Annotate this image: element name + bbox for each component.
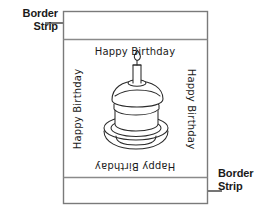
candle (133, 65, 141, 83)
card-diagram (0, 0, 264, 217)
figure-canvas: Border Strip Border Strip (0, 0, 264, 217)
greeting-text-right: Happy Birthday (186, 69, 197, 150)
greeting-text-left: Happy Birthday (72, 69, 83, 150)
greeting-text-bottom: Happy Birthday (95, 161, 176, 172)
greeting-text-top: Happy Birthday (95, 46, 176, 57)
